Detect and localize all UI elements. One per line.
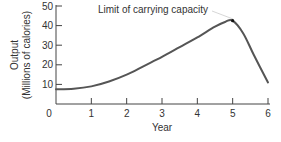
carrying-capacity-chart: 1020304050 0123456 Output (Millions of c…: [0, 0, 281, 142]
x-tick-label: 2: [124, 108, 130, 119]
x-tick-label: 1: [89, 108, 95, 119]
x-tick-label: 3: [159, 108, 165, 119]
annotation-leader-line: [212, 11, 233, 19]
output-curve: [56, 20, 268, 89]
chart-svg: 1020304050 0123456 Output (Millions of c…: [0, 0, 281, 142]
x-tick-label: 4: [195, 108, 201, 119]
y-axis-label: Output: [9, 40, 20, 70]
x-tick-label: 0: [46, 108, 52, 119]
peak-marker: [231, 19, 234, 22]
y-tick-label: 20: [42, 59, 54, 70]
y-axis-ticks: 1020304050: [42, 1, 62, 90]
carrying-capacity-annotation: Limit of carrying capacity: [98, 4, 208, 15]
x-axis-ticks: 0123456: [46, 98, 271, 119]
x-axis-label: Year: [152, 122, 173, 133]
x-tick-label: 5: [230, 108, 236, 119]
y-tick-label: 30: [42, 40, 54, 51]
y-tick-label: 50: [42, 1, 54, 12]
x-tick-label: 6: [265, 108, 271, 119]
y-tick-label: 40: [42, 20, 54, 31]
y-tick-label: 10: [42, 79, 54, 90]
y-axis-sublabel: (Millions of calories): [21, 11, 32, 99]
